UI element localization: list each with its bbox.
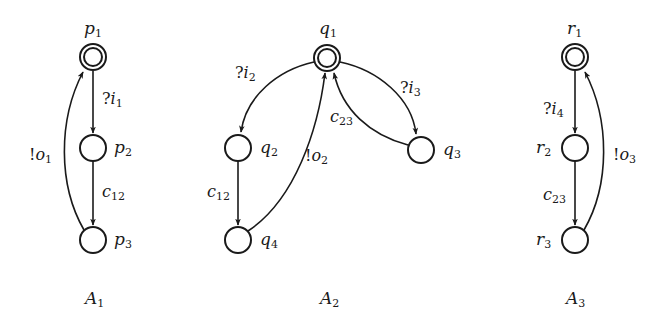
state-q4 bbox=[225, 227, 251, 253]
state-q2 bbox=[225, 135, 251, 161]
state-label-r3: r3 bbox=[536, 229, 551, 251]
transition-label-r3-r1: !o3 bbox=[613, 145, 636, 166]
automaton-a1: p1 p2 p3 ?i1 c12 !o1 A1 bbox=[29, 18, 132, 310]
transition-label-p1-p2: ?i1 bbox=[102, 89, 123, 110]
automaton-caption-a1: A1 bbox=[83, 288, 104, 310]
state-q3 bbox=[408, 137, 434, 163]
state-label-q2: q2 bbox=[260, 137, 278, 159]
state-label-p2: p2 bbox=[114, 137, 132, 159]
state-r2 bbox=[562, 135, 588, 161]
state-q1 bbox=[314, 45, 340, 71]
state-label-p3: p3 bbox=[114, 229, 132, 251]
state-p3 bbox=[80, 227, 106, 253]
state-r1 bbox=[562, 44, 588, 70]
automaton-a2: q1 q2 q3 q4 ?i2 ?i3 c23 c12 !o2 A2 bbox=[207, 18, 461, 310]
automata-diagram: p1 p2 p3 ?i1 c12 !o1 A1 q1 q2 q3 q4 ?i2 … bbox=[0, 0, 666, 330]
automaton-caption-a3: A3 bbox=[564, 288, 585, 310]
transition-label-p3-p1: !o1 bbox=[29, 145, 52, 166]
edge-q3-q1 bbox=[334, 73, 408, 145]
transition-label-p2-p3: c12 bbox=[102, 182, 125, 203]
state-label-p1: p1 bbox=[84, 18, 102, 40]
state-label-q3: q3 bbox=[443, 139, 461, 161]
state-p2 bbox=[80, 135, 106, 161]
transition-label-r2-r3: c23 bbox=[543, 185, 566, 206]
automaton-a3: r1 r2 r3 ?i4 c23 !o3 A3 bbox=[536, 18, 636, 310]
state-p1 bbox=[80, 44, 106, 70]
state-label-q4: q4 bbox=[260, 229, 278, 251]
automaton-caption-a2: A2 bbox=[318, 288, 339, 310]
transition-label-q1-q2: ?i2 bbox=[235, 63, 256, 84]
state-r3 bbox=[562, 227, 588, 253]
transition-label-r1-r2: ?i4 bbox=[543, 99, 564, 120]
transition-label-q1-q3: ?i3 bbox=[400, 78, 421, 99]
transition-label-q2-q4: c12 bbox=[207, 182, 230, 203]
state-label-q1: q1 bbox=[319, 18, 337, 40]
state-label-r2: r2 bbox=[536, 137, 551, 159]
transition-label-q3-q1: c23 bbox=[330, 107, 353, 128]
state-label-r1: r1 bbox=[567, 18, 582, 40]
transition-label-q4-q1: !o2 bbox=[305, 146, 328, 167]
